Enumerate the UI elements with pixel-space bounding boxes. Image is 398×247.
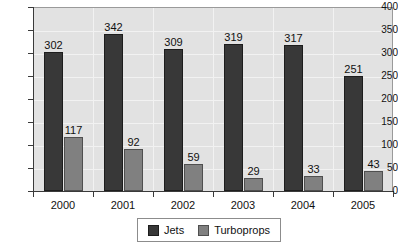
bar-chart: 050100150200250300350400 200020012002200… [0,0,398,247]
data-label-turboprops-2003: 29 [237,165,270,177]
x-axis-tick [33,192,34,197]
y-axis-tick [28,145,33,146]
bar-jets-2001 [104,34,123,191]
bar-turboprops-2003 [244,178,263,191]
x-axis-tick [393,192,394,197]
x-axis-label: 2001 [93,199,153,211]
chart-title-clipped [150,0,220,2]
legend-label-turboprops: Turboprops [214,224,270,236]
y-axis-tick [28,30,33,31]
y-axis-tick [28,168,33,169]
category-separator [93,8,94,191]
bar-turboprops-2004 [304,176,323,191]
y-axis-label: 250 [372,71,398,81]
x-axis-tick [213,192,214,197]
legend-swatch-turboprops-icon [198,225,209,236]
bar-jets-2005 [344,76,363,191]
y-axis-label: 200 [372,94,398,104]
legend-swatch-jets-icon [148,225,159,236]
data-label-jets-2005: 251 [337,63,370,75]
x-axis-label: 2003 [213,199,273,211]
y-axis-label: 150 [372,117,398,127]
category-separator [153,8,154,191]
x-axis-tick [333,192,334,197]
data-label-jets-2000: 302 [37,39,70,51]
data-label-jets-2002: 309 [157,36,190,48]
y-axis-label: 100 [372,140,398,150]
y-axis-tick [28,7,33,8]
x-axis-label: 2004 [273,199,333,211]
bar-jets-2002 [164,49,183,191]
category-separator [273,8,274,191]
x-axis-label: 2005 [333,199,393,211]
y-axis-line [33,7,34,192]
y-axis-tick [28,53,33,54]
data-label-turboprops-2000: 117 [57,124,90,136]
data-label-jets-2003: 319 [217,31,250,43]
category-separator [213,8,214,191]
bar-turboprops-2001 [124,149,143,191]
y-axis-label: 0 [372,186,398,196]
category-separator [333,8,334,191]
bar-jets-2000 [44,52,63,191]
data-label-turboprops-2005: 43 [357,158,390,170]
bar-turboprops-2000 [64,137,83,191]
data-label-jets-2001: 342 [97,21,130,33]
legend-entry-turboprops[interactable]: Turboprops [198,224,270,236]
bar-turboprops-2002 [184,164,203,191]
x-axis-label: 2002 [153,199,213,211]
data-label-turboprops-2002: 59 [177,151,210,163]
data-label-jets-2004: 317 [277,32,310,44]
data-label-turboprops-2004: 33 [297,163,330,175]
y-axis-tick [28,99,33,100]
y-axis-label: 300 [372,48,398,58]
x-axis-tick [93,192,94,197]
y-axis-tick [28,122,33,123]
x-axis-label: 2000 [33,199,93,211]
legend-label-jets: Jets [164,224,184,236]
legend-entry-jets[interactable]: Jets [148,224,184,236]
plot-area [33,7,393,191]
chart-legend: Jets Turboprops [137,218,281,242]
y-axis-label: 400 [372,2,398,12]
x-axis-tick [153,192,154,197]
data-label-turboprops-2001: 92 [117,136,150,148]
y-axis-label: 350 [372,25,398,35]
y-axis-tick [28,76,33,77]
x-axis-tick [273,192,274,197]
